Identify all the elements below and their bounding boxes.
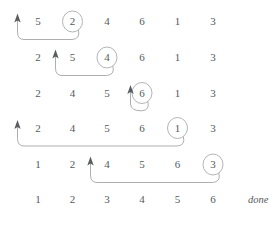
value-cell: 5 <box>168 194 188 205</box>
value-cell: 6 <box>132 52 152 63</box>
value-cell: 1 <box>168 52 188 63</box>
value-cell: 2 <box>28 88 48 99</box>
value-cell: 6 <box>168 159 188 170</box>
value-cell: 4 <box>97 159 117 170</box>
value-cell: 3 <box>203 123 223 134</box>
value-cell: 3 <box>203 52 223 63</box>
value-cell: 4 <box>63 88 83 99</box>
value-cell: 3 <box>97 194 117 205</box>
value-cell-circled: 4 <box>97 52 117 63</box>
value-cell: 6 <box>203 194 223 205</box>
value-cell: 2 <box>28 52 48 63</box>
value-cell: 5 <box>97 88 117 99</box>
done-label: done <box>248 194 268 205</box>
value-cell: 5 <box>63 52 83 63</box>
value-cell: 5 <box>132 159 152 170</box>
value-cell-circled: 3 <box>203 159 223 170</box>
value-cell: 6 <box>132 123 152 134</box>
value-cell: 1 <box>168 88 188 99</box>
value-cell: 1 <box>28 159 48 170</box>
value-cell: 2 <box>63 194 83 205</box>
value-cell: 6 <box>132 16 152 27</box>
arrows-and-circles-layer <box>0 0 277 225</box>
value-cell: 5 <box>97 123 117 134</box>
value-cell-circled: 6 <box>132 88 152 99</box>
value-cell: 4 <box>132 194 152 205</box>
value-cell: 2 <box>63 159 83 170</box>
value-cell: 4 <box>97 16 117 27</box>
value-cell: 4 <box>63 123 83 134</box>
value-cell: 1 <box>168 16 188 27</box>
value-cell-circled: 1 <box>168 123 188 134</box>
value-cell: 3 <box>203 16 223 27</box>
value-cell: 5 <box>28 16 48 27</box>
value-cell: 2 <box>28 123 48 134</box>
value-cell-circled: 2 <box>63 16 83 27</box>
value-cell: 1 <box>28 194 48 205</box>
value-cell: 3 <box>203 88 223 99</box>
insertion-sort-diagram: 5 2 4 6 1 3 2 5 4 6 1 3 2 4 5 6 1 3 2 4 … <box>0 0 277 225</box>
